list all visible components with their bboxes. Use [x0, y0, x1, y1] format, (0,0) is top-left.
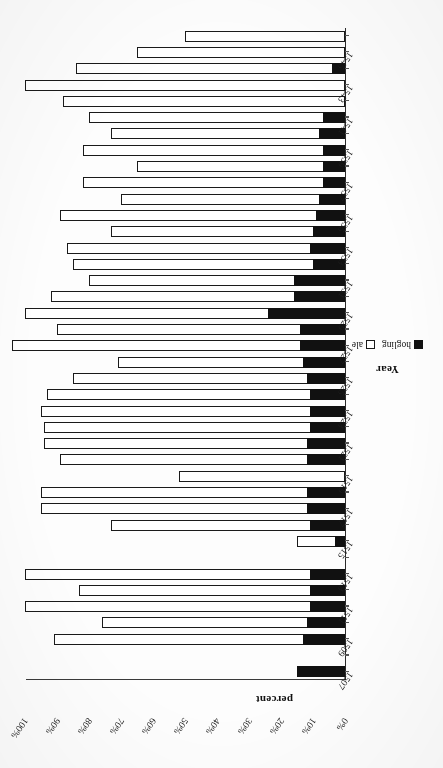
value-axis-tick-label: 90% [44, 716, 62, 736]
category-axis-tick-label: 1507 [347, 670, 355, 676]
chart-canvas: 100%90%80%70%60%50%40%30%20%10%0% 150715… [0, 0, 443, 768]
bar-segment-ale [25, 601, 310, 612]
bar-segment-ale [41, 487, 307, 498]
bar-segment-ale [41, 406, 310, 417]
bar-segment-ale [79, 585, 309, 596]
category-axis-tick-label: 1543 [347, 83, 355, 89]
category-axis-tick-label: 1529 [347, 311, 355, 317]
bar-row [76, 63, 345, 74]
category-axis-tick-label: 1537 [347, 181, 355, 187]
category-axis-tick-label: 1511 [347, 605, 355, 611]
bar-row [25, 569, 345, 580]
bar-row [44, 438, 345, 449]
bar-row [63, 96, 345, 107]
value-axis-tick-label: 20% [268, 716, 286, 736]
bar-segment-ale [51, 291, 294, 302]
value-axis-tick-label: 100% [9, 716, 30, 740]
bar-segment-hogling [307, 438, 345, 449]
bar-row [51, 291, 345, 302]
bar-row [137, 47, 345, 58]
bar-segment-hogling [300, 340, 345, 351]
bar-row [89, 275, 345, 286]
bar-row [102, 617, 345, 628]
bar-row [41, 406, 345, 417]
legend-label-ale: ale [352, 340, 363, 350]
bar-segment-ale [41, 503, 307, 514]
bar-segment-ale [89, 275, 294, 286]
bar-segment-hogling [310, 569, 345, 580]
category-axis-tick-label: 1545 [347, 51, 355, 57]
bar-row [73, 259, 345, 270]
bar-row [60, 454, 345, 465]
bar-row [83, 177, 345, 188]
bar-segment-ale [25, 569, 310, 580]
bar-segment-ale [89, 112, 323, 123]
bar-segment-ale [60, 210, 316, 221]
bar-segment-ale [179, 471, 345, 482]
bar-row [137, 161, 345, 172]
bar-segment-ale [118, 357, 304, 368]
bar-segment-ale [297, 536, 335, 547]
bar-row [297, 536, 345, 547]
bar-segment-ale [12, 340, 300, 351]
bar-row [12, 340, 345, 351]
bar-row [118, 357, 345, 368]
bar-row [111, 520, 345, 531]
bar-segment-ale [47, 389, 309, 400]
bar-segment-hogling [307, 503, 345, 514]
category-axis-tick-label: 1525 [347, 377, 355, 383]
category-axis-tick-label: 1513 [347, 572, 355, 578]
bar-row [73, 373, 345, 384]
legend-item-hogling: hogling [382, 340, 423, 350]
bar-row [41, 487, 345, 498]
bar-segment-ale [83, 177, 323, 188]
value-axis-title: percent [256, 694, 293, 706]
bar-segment-hogling [303, 634, 345, 645]
bar-segment-ale [102, 617, 307, 628]
bar-row [179, 471, 345, 482]
bar-row [89, 112, 345, 123]
value-axis-tick-label: 80% [76, 716, 94, 736]
bar-segment-ale [44, 438, 306, 449]
bar-segment-hogling [310, 601, 345, 612]
bar-row [121, 194, 345, 205]
bar-segment-ale [25, 308, 268, 319]
bar-segment-hogling [310, 243, 345, 254]
bar-row [41, 503, 345, 514]
bar-segment-ale [25, 80, 345, 91]
bar-segment-hogling [268, 308, 345, 319]
bar-segment-ale [111, 226, 313, 237]
bar-row [47, 389, 345, 400]
value-axis-tick-label: 70% [108, 716, 126, 736]
value-axis-tick-label: 30% [236, 716, 254, 736]
category-axis-tick-label: 1535 [347, 214, 355, 220]
bar-segment-hogling [307, 373, 345, 384]
legend-swatch-ale-icon [366, 341, 375, 350]
bar-segment-ale [76, 63, 332, 74]
bar-segment-ale [57, 324, 300, 335]
bar-segment-ale [111, 520, 309, 531]
bar-segment-ale [137, 161, 323, 172]
bar-row [44, 422, 345, 433]
category-axis-tick-label: 1517 [347, 507, 355, 513]
bar-row [57, 324, 345, 335]
value-axis-tick-label: 10% [300, 716, 318, 736]
bar-row [185, 31, 345, 42]
bar-segment-ale [111, 128, 319, 139]
bar-row [111, 226, 345, 237]
bar-row [67, 243, 345, 254]
category-axis-tick-label: 1533 [347, 246, 355, 252]
category-axis-tick-label: 1523 [347, 409, 355, 415]
value-axis-tick-label: 60% [140, 716, 158, 736]
bar-segment-ale [121, 194, 319, 205]
bar-row [111, 128, 345, 139]
bar-segment-ale [54, 634, 304, 645]
bar-segment-ale [73, 373, 307, 384]
category-axis-tick-label: 1531 [347, 279, 355, 285]
bar-segment-ale [60, 454, 306, 465]
legend-label-hogling: hogling [382, 340, 411, 350]
chart-legend: hogling ale [352, 340, 423, 350]
category-axis-tick-label: 1519 [347, 474, 355, 480]
bar-segment-hogling [294, 275, 345, 286]
bar-row [83, 145, 345, 156]
